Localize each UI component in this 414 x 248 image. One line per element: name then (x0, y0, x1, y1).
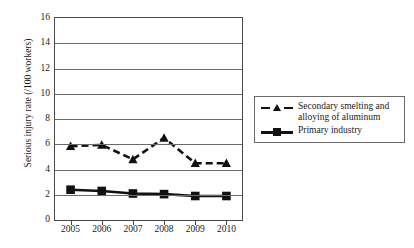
gridline-y-8 (55, 119, 242, 120)
chart-figure: Serious injury rate (/100 workers) 02468… (0, 0, 414, 248)
gridline-y-4 (55, 170, 242, 171)
plot-area (54, 17, 243, 221)
legend-label-secondary-smelting: Secondary smelting andalloying of alumin… (298, 101, 389, 123)
y-tick-label-12: 12 (0, 63, 50, 73)
data-point-2009 (191, 192, 200, 201)
legend-label-line2: alloying of aluminum (298, 112, 380, 122)
y-tick-label-4: 4 (0, 164, 50, 174)
chart-legend: Secondary smelting andalloying of alumin… (254, 96, 405, 143)
gridline-y-6 (55, 144, 242, 145)
legend-label-primary-industry: Primary industry (298, 125, 362, 136)
x-tick-label-2008: 2008 (147, 224, 181, 234)
legend-item-primary-industry: Primary industry (261, 125, 362, 138)
x-tick-label-2005: 2005 (54, 224, 88, 234)
legend-label-line1: Secondary smelting and (298, 101, 389, 111)
y-tick-label-6: 6 (0, 138, 50, 148)
gridline-y-14 (55, 43, 242, 44)
y-tick-label-0: 0 (0, 214, 50, 224)
gridline-y-2 (55, 195, 242, 196)
dashed-triangle-marker-icon (261, 102, 295, 114)
y-tick-label-16: 16 (0, 12, 50, 22)
y-tick-label-2: 2 (0, 189, 50, 199)
gridline-y-12 (55, 69, 242, 70)
legend-item-secondary-smelting: Secondary smelting andalloying of alumin… (261, 101, 389, 123)
series-primary-industry (66, 185, 230, 200)
y-tick-label-8: 8 (0, 113, 50, 123)
data-point-2007 (129, 189, 138, 198)
y-tick-label-10: 10 (0, 88, 50, 98)
gridline-y-10 (55, 94, 242, 95)
data-point-2010 (222, 192, 231, 201)
data-point-2005 (66, 185, 75, 194)
series-secondary-smelting (66, 133, 231, 167)
y-tick-label-14: 14 (0, 37, 50, 47)
data-point-2008 (159, 133, 168, 141)
x-tick-label-2006: 2006 (85, 224, 119, 234)
x-tick-label-2009: 2009 (178, 224, 212, 234)
x-tick-label-2010: 2010 (209, 224, 243, 234)
solid-square-marker-icon (261, 126, 295, 138)
series-line (71, 138, 227, 163)
x-tick-label-2007: 2007 (116, 224, 150, 234)
